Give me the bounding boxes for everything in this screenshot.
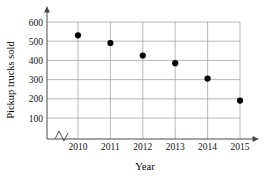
x-tick-labels: 2010 2011 2012 2013 2014 2015 [69,142,250,152]
y-tick-label-400: 400 [29,56,44,66]
data-point-2010 [75,32,81,38]
y-axis-arrow-icon [44,6,50,13]
y-axis-title: Pickup trucks sold [5,40,16,118]
y-tick-label-600: 600 [29,18,44,28]
x-tick-label-2011: 2011 [101,142,120,152]
vertical-gridlines [78,22,240,139]
y-tick-label-300: 300 [29,75,44,85]
data-point-2013 [172,60,178,66]
y-tick-label-100: 100 [29,114,44,124]
scatter-plot: 600 500 400 300 200 100 2010 2011 2012 2… [0,0,269,180]
data-point-2014 [205,76,211,82]
x-tick-label-2014: 2014 [198,142,217,152]
x-tick-label-2010: 2010 [69,142,88,152]
x-tick-label-2015: 2015 [231,142,250,152]
y-tick-labels: 600 500 400 300 200 100 [29,18,44,124]
y-tick-label-500: 500 [29,37,44,47]
axes [44,6,259,142]
x-tick-label-2013: 2013 [166,142,185,152]
data-points [75,32,243,104]
x-axis-arrow-icon [253,136,260,142]
data-point-2011 [107,40,113,46]
data-point-2012 [140,52,146,58]
y-tick-label-200: 200 [29,94,44,104]
chart-screenshot: 600 500 400 300 200 100 2010 2011 2012 2… [0,0,269,180]
x-axis-title: Year [135,161,155,172]
data-point-2015 [237,98,243,104]
x-tick-label-2012: 2012 [133,142,152,152]
